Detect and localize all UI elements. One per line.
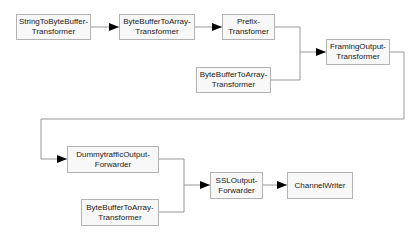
node-bytebuffer-to-array-transformer-3: ByteBufferToArray- Transformer <box>81 199 159 226</box>
node-dummytraffic-output-forwarder: DummytrafficOutput- Forwarder <box>67 146 159 173</box>
node-framing-output-transformer: FramingOutput- Transformer <box>326 39 390 65</box>
node-prefix-transformer: Prefix- Transfomer <box>222 14 275 40</box>
node-bytebuffer-to-array-transformer-2: ByteBufferToArray- Transformer <box>196 67 271 93</box>
edge-merge-n3-n4 <box>271 27 300 80</box>
node-ssl-output-forwarder: SSLOutput- Forwarder <box>210 172 263 199</box>
node-channel-writer: ChannelWriter <box>287 172 353 199</box>
node-string-to-bytebuffer-transformer: StringToByteBuffer- Transformer <box>16 14 91 40</box>
edge-merge-n6-n7 <box>159 159 184 212</box>
node-bytebuffer-to-array-transformer-1: ByteBufferToArray- Transformer <box>119 14 195 40</box>
